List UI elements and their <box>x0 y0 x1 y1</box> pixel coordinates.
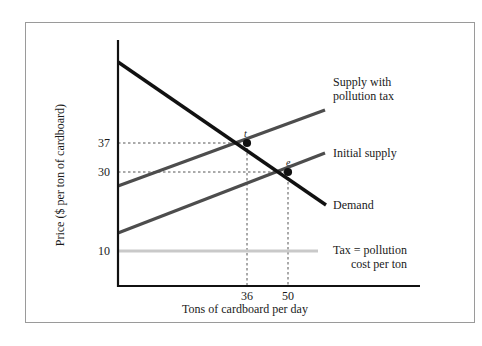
y-tick-label-37: 37 <box>88 136 110 150</box>
marker-point-t <box>243 139 251 147</box>
series-line-demand <box>118 62 326 205</box>
series-label-initial-supply: Initial supply <box>333 146 397 160</box>
series-label-tax-line2: cost per ton <box>333 257 407 271</box>
y-tick-label-30: 30 <box>88 165 110 179</box>
figure-container: 37 30 10 36 50 Price ($ per ton of cardb… <box>0 0 482 346</box>
series-line-initial-supply <box>118 153 325 233</box>
series-label-tax: Tax = pollution cost per ton <box>333 243 407 271</box>
guide-lines <box>118 143 288 286</box>
marker-point-e <box>284 168 292 176</box>
annotation-point-e: e <box>286 157 290 169</box>
series-line-supply-with-tax <box>118 110 325 186</box>
series-label-supply-with-tax-line2: pollution tax <box>333 89 394 103</box>
y-axis-title: Price ($ per ton of cardboard) <box>53 80 67 270</box>
y-tick-label-10: 10 <box>88 244 110 258</box>
series-label-tax-line1: Tax = pollution <box>333 243 407 257</box>
series-label-demand: Demand <box>333 198 374 212</box>
annotation-point-t: t <box>244 128 247 140</box>
series-label-supply-with-tax: Supply with pollution tax <box>333 75 394 103</box>
x-axis-title: Tons of cardboard per day <box>170 302 320 316</box>
series-label-supply-with-tax-line1: Supply with <box>333 75 394 89</box>
